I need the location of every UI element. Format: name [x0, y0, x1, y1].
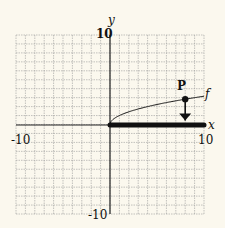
arrow-down-icon — [179, 114, 191, 121]
y-min-label: -10 — [88, 208, 107, 222]
y-axis-label: y — [107, 13, 115, 27]
point-p-label: P — [177, 79, 186, 93]
x-min-label: -10 — [11, 133, 30, 147]
y-max-label: 10 — [96, 27, 113, 41]
x-axis-label: x — [208, 118, 215, 132]
curve-f-label: f — [204, 87, 212, 101]
x-max-label: 10 — [198, 133, 213, 147]
graph: y 10 -10 x -10 10 P f — [0, 0, 225, 228]
point-p — [182, 96, 188, 102]
